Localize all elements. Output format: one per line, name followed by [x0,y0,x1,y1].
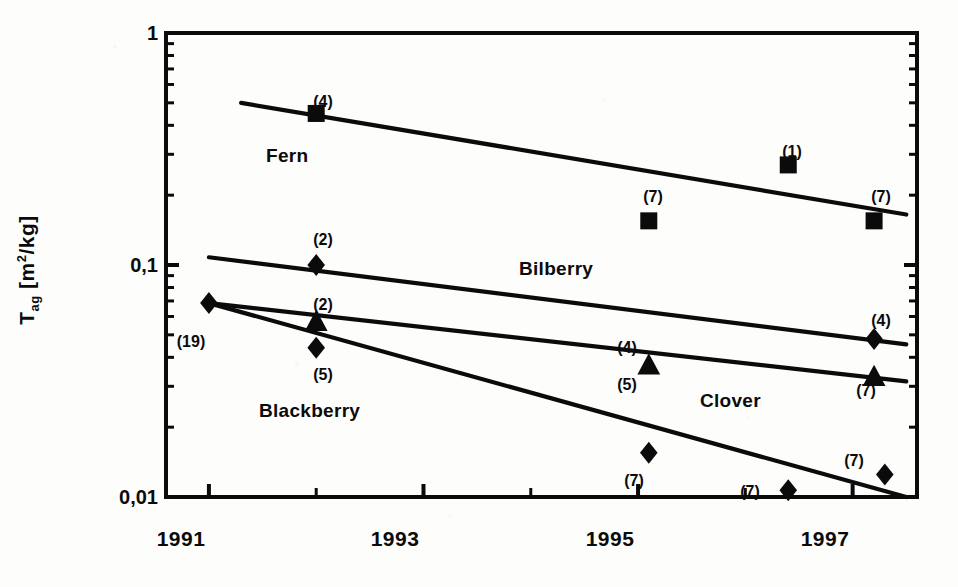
chart-figure: Tag [m2/kg] 1 0,1 0,01 1991 1993 1995 19… [0,0,958,587]
plot-group [166,33,917,501]
data-point-bilberry-1997 [865,328,883,350]
plot-canvas [0,0,958,587]
data-point-blackberry-1992 [307,337,325,359]
trend-line-fern [241,103,906,215]
data-point-blackberry-1997 [876,464,894,486]
data-point-fern-1995 [640,212,657,229]
data-point-blackberry-1991 [200,292,218,314]
data-point-clover-1995 [637,353,660,374]
data-point-fern-1997 [866,212,883,229]
data-point-fern-1996 [780,156,797,173]
data-point-fern-1992 [308,105,325,122]
data-point-blackberry-1995 [640,442,658,464]
